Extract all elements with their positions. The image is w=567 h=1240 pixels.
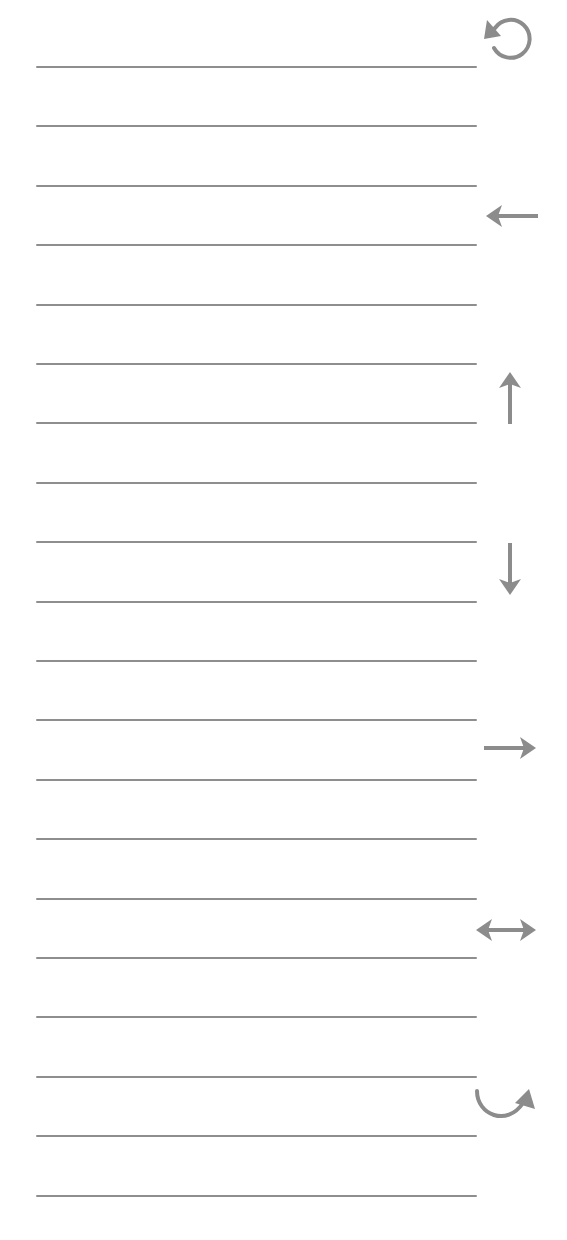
arrow-right-icon[interactable]	[482, 735, 538, 761]
ruled-line	[36, 719, 477, 721]
curved-arrow-clockwise-icon[interactable]	[473, 1087, 537, 1129]
arrow-left-icon[interactable]	[484, 203, 540, 229]
ruled-line	[36, 838, 477, 840]
ruled-line	[36, 1016, 477, 1018]
ruled-line	[36, 660, 477, 662]
ruled-line	[36, 898, 477, 900]
ruled-line	[36, 66, 477, 68]
ruled-line	[36, 779, 477, 781]
ruled-line	[36, 482, 477, 484]
ruled-line	[36, 185, 477, 187]
ruled-line	[36, 541, 477, 543]
arrow-down-icon[interactable]	[497, 543, 523, 597]
ruled-line	[36, 244, 477, 246]
ruled-line	[36, 304, 477, 306]
ruled-line	[36, 363, 477, 365]
ruled-line	[36, 422, 477, 424]
arrow-up-icon[interactable]	[497, 370, 523, 424]
ruled-line	[36, 1135, 477, 1137]
arrow-left-right-icon[interactable]	[474, 917, 538, 943]
ruled-line	[36, 125, 477, 127]
ruled-writing-area	[0, 0, 567, 1240]
ruled-line	[36, 1195, 477, 1197]
rotate-counterclockwise-icon[interactable]	[481, 12, 535, 64]
ruled-line	[36, 1076, 477, 1078]
ruled-line	[36, 601, 477, 603]
ruled-line	[36, 957, 477, 959]
